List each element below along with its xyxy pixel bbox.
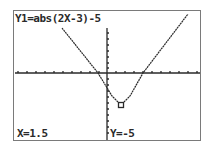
trace-cursor[interactable] (119, 103, 124, 108)
function-label: Y1=abs(2X-3)-5 (15, 13, 101, 24)
trace-x-value: X=1.5 (17, 128, 48, 139)
trace-y-value: Y=-5 (110, 128, 135, 139)
function-curve-y1 (62, 14, 188, 105)
